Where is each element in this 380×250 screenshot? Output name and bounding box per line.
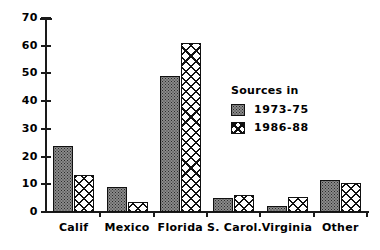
legend: Sources in 1973-75 1986-88 — [231, 84, 309, 139]
x-axis-label: Mexico — [100, 222, 153, 233]
bar — [107, 187, 127, 212]
plot-area — [47, 18, 367, 212]
bar — [160, 76, 180, 212]
bar — [341, 183, 361, 212]
bar — [267, 206, 287, 212]
y-axis-tick-label: 30 — [10, 123, 38, 134]
legend-label: 1973-75 — [254, 103, 309, 116]
y-axis-tick-label: 10 — [10, 178, 38, 189]
legend-entry-1973-75: 1973-75 — [231, 103, 309, 116]
x-axis-label: Virginia — [260, 222, 313, 233]
x-axis-label: Other — [314, 222, 367, 233]
bar — [213, 198, 233, 212]
y-axis-tick-label: 40 — [10, 95, 38, 106]
bar — [181, 43, 201, 212]
bar-chart: 010203040506070 CalifMexicoFloridaS. Car… — [0, 0, 380, 250]
x-axis-label: Calif — [47, 222, 100, 233]
stipple-gray-swatch-icon — [231, 104, 245, 116]
y-axis-tick-label: 60 — [10, 40, 38, 51]
y-axis-tick-label: 50 — [10, 67, 38, 78]
bar — [128, 202, 148, 212]
bar — [74, 175, 94, 212]
bar — [234, 195, 254, 212]
bar — [320, 180, 340, 212]
legend-entry-1986-88: 1986-88 — [231, 121, 309, 134]
legend-label: 1986-88 — [254, 121, 309, 134]
bar — [53, 146, 73, 213]
crosshatch-swatch-icon — [231, 122, 245, 134]
y-axis-tick-label: 0 — [10, 206, 38, 217]
y-axis-tick-label: 70 — [10, 12, 38, 23]
x-axis-label: S. Carol. — [207, 222, 260, 233]
legend-title: Sources in — [231, 84, 309, 97]
x-axis-label: Florida — [154, 222, 207, 233]
bar — [288, 197, 308, 212]
y-axis-tick-label: 20 — [10, 151, 38, 162]
